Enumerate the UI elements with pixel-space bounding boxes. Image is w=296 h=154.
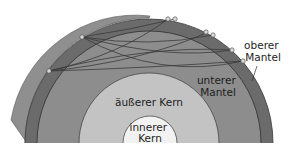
- station-marker: [230, 48, 234, 52]
- station-marker: [47, 69, 51, 73]
- label-oberer-mantel: oberer Mantel: [244, 39, 282, 63]
- station-marker: [211, 33, 215, 37]
- label-aeusserer-kern: äußerer Kern: [115, 96, 183, 108]
- station-marker: [166, 17, 170, 21]
- label-unterer-mantel: unterer Mantel: [197, 74, 239, 98]
- station-marker: [173, 17, 177, 21]
- station-marker: [204, 30, 208, 34]
- station-marker: [80, 35, 84, 39]
- earth-cross-section-diagram: oberer Mantel unterer Mantel äußerer Ker…: [0, 0, 296, 154]
